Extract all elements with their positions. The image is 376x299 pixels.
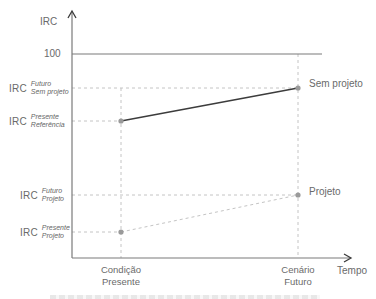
irc-subscript: Futuro Sem projeto <box>31 80 69 96</box>
irc-prefix: IRC <box>9 83 27 94</box>
x-category-line1: Cenário <box>268 264 328 276</box>
irc-subscript-line2: Referência <box>31 121 65 129</box>
x-category-line2: Futuro <box>268 276 328 288</box>
irc-subscript-line2: Projeto <box>42 195 64 203</box>
irc-subscript-line1: Futuro <box>42 187 64 195</box>
x-axis-title: Tempo <box>337 265 367 276</box>
reference-100-label: 100 <box>44 48 61 59</box>
point-future-no-project <box>295 85 300 90</box>
irc-subscript: Futuro Projeto <box>42 187 64 203</box>
point-present-reference <box>118 118 123 123</box>
irc-subscript-line2: Sem projeto <box>31 88 69 96</box>
y-axis-title: IRC <box>40 16 57 27</box>
irc-diagram: IRC 100 IRC Futuro Sem projeto IRC Prese… <box>0 0 376 299</box>
irc-subscript-line1: Presente <box>42 224 70 232</box>
y-label-future-no-project: IRC Futuro Sem projeto <box>9 80 69 96</box>
trend-line-with-project <box>121 195 298 232</box>
irc-subscript: Presente Referência <box>31 113 65 129</box>
irc-prefix: IRC <box>20 227 38 238</box>
point-present-project <box>118 229 123 234</box>
y-label-present-project: IRC Presente Projeto <box>20 224 70 240</box>
series-label-without-project: Sem projeto <box>309 78 363 89</box>
point-future-project <box>295 192 300 197</box>
irc-subscript-line1: Futuro <box>31 80 69 88</box>
x-category-line1: Condição <box>91 264 151 276</box>
y-label-present-reference: IRC Presente Referência <box>9 113 65 129</box>
clipped-caption <box>50 295 320 299</box>
trend-line-without-project <box>121 88 298 121</box>
x-category-future: Cenário Futuro <box>268 264 328 288</box>
x-category-line2: Presente <box>91 276 151 288</box>
irc-subscript-line2: Projeto <box>42 232 70 240</box>
x-category-present: Condição Presente <box>91 264 151 288</box>
irc-subscript: Presente Projeto <box>42 224 70 240</box>
irc-prefix: IRC <box>20 190 38 201</box>
y-label-future-project: IRC Futuro Projeto <box>20 187 64 203</box>
diagram-canvas <box>0 0 376 299</box>
series-label-with-project: Projeto <box>309 186 341 197</box>
irc-prefix: IRC <box>9 116 27 127</box>
irc-subscript-line1: Presente <box>31 113 65 121</box>
